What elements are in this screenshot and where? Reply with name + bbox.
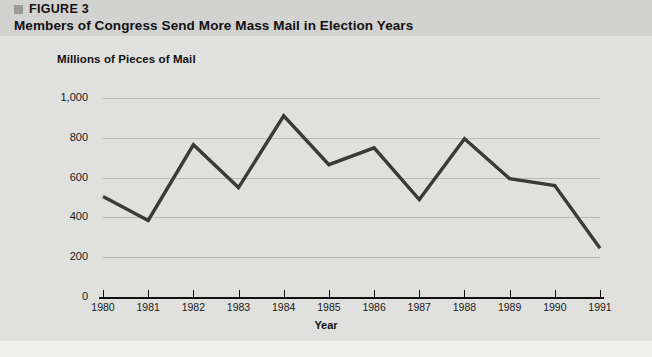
figure-container: FIGURE 3 Members of Congress Send More M… xyxy=(0,0,652,357)
x-tick-label: 1982 xyxy=(171,301,215,313)
chart-body: Millions of Pieces of Mail 0200400600800… xyxy=(0,36,652,341)
x-axis-line xyxy=(99,297,604,299)
x-tick-mark xyxy=(329,290,330,297)
x-tick-label: 1983 xyxy=(217,301,261,313)
plot-area: 02004006008001,000 198019811982198319841… xyxy=(0,36,652,341)
figure-title: Members of Congress Send More Mass Mail … xyxy=(14,18,413,34)
x-tick-mark xyxy=(600,290,601,297)
x-tick-label: 1988 xyxy=(442,301,486,313)
x-tick-mark xyxy=(510,290,511,297)
figure-header-band: FIGURE 3 Members of Congress Send More M… xyxy=(0,0,652,36)
figure-header-text: FIGURE 3 Members of Congress Send More M… xyxy=(14,2,413,34)
x-tick-label: 1984 xyxy=(262,301,306,313)
x-tick-label: 1987 xyxy=(397,301,441,313)
square-bullet-icon xyxy=(14,5,23,14)
x-tick-mark xyxy=(239,290,240,297)
x-axis-title: Year xyxy=(0,319,652,331)
x-tick-mark xyxy=(284,290,285,297)
x-tick-label: 1980 xyxy=(81,301,125,313)
x-tick-mark xyxy=(555,290,556,297)
x-tick-mark xyxy=(148,290,149,297)
x-tick-label: 1991 xyxy=(578,301,622,313)
x-tick-mark xyxy=(464,290,465,297)
x-tick-mark xyxy=(193,290,194,297)
x-tick-mark xyxy=(103,290,104,297)
x-tick-mark xyxy=(374,290,375,297)
x-tick-label: 1990 xyxy=(533,301,577,313)
x-tick-label: 1986 xyxy=(352,301,396,313)
x-tick-label: 1989 xyxy=(488,301,532,313)
figure-label-row: FIGURE 3 xyxy=(14,2,413,17)
series-line-mass-mail xyxy=(103,116,600,248)
x-tick-mark xyxy=(419,290,420,297)
footer-strip xyxy=(0,341,652,357)
figure-label: FIGURE 3 xyxy=(29,3,89,16)
x-tick-label: 1985 xyxy=(307,301,351,313)
x-tick-label: 1981 xyxy=(126,301,170,313)
